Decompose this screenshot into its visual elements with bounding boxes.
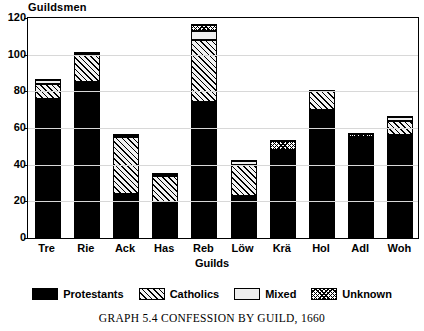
bar-has[interactable] (152, 173, 178, 238)
y-axis-tick-label: 40 (0, 159, 26, 169)
bar-segment-protestants (74, 81, 100, 238)
x-axis-title: Guilds (0, 257, 424, 269)
bar-woh[interactable] (387, 116, 413, 238)
bar-segment-mixed (191, 31, 217, 40)
y-axis-tick-label: 100 (0, 49, 26, 59)
y-axis-tick-label: 20 (0, 195, 26, 205)
bar-löw[interactable] (231, 160, 257, 238)
legend-label: Mixed (265, 288, 296, 300)
gridline (28, 55, 418, 56)
y-axis-title: Guildsmen (28, 1, 87, 13)
bar-segment-unknown (191, 25, 217, 31)
legend-item-protestants[interactable]: Protestants (32, 288, 124, 300)
bar-segment-catholics (231, 165, 257, 196)
y-axis-tick-label: 0 (0, 232, 26, 242)
bar-reb[interactable] (191, 24, 217, 238)
legend-item-mixed[interactable]: Mixed (234, 288, 296, 300)
gridline (28, 128, 418, 129)
bar-segment-protestants (152, 202, 178, 238)
bar-segment-catholics (191, 40, 217, 102)
y-axis-tick-label: 120 (0, 12, 26, 22)
bar-segment-catholics (152, 176, 178, 204)
bar-segment-mixed (35, 80, 61, 84)
gridline (28, 91, 418, 92)
bar-segment-catholics (74, 55, 100, 83)
legend-swatch-unknown (311, 288, 337, 300)
figure-caption: GRAPH 5.4 CONFESSION BY GUILD, 1660 (0, 312, 424, 324)
legend-item-unknown[interactable]: Unknown (311, 288, 392, 300)
y-axis-tick-label: 80 (0, 85, 26, 95)
legend-swatch-catholics (139, 288, 165, 300)
bar-segment-protestants (270, 149, 296, 238)
bar-segment-mixed (152, 174, 178, 176)
x-axis-label-woh: Woh (374, 242, 424, 254)
gridline (28, 201, 418, 202)
bar-segment-catholics (309, 91, 335, 109)
bar-segment-unknown (348, 134, 374, 138)
bar-segment-protestants (191, 101, 217, 238)
chart-legend: ProtestantsCatholicsMixedUnknown (0, 288, 424, 300)
legend-label: Unknown (342, 288, 392, 300)
bar-segment-protestants (387, 134, 413, 238)
plot-area (27, 17, 419, 239)
bar-tre[interactable] (35, 79, 61, 238)
gridline (28, 165, 418, 166)
bar-segment-protestants (35, 98, 61, 238)
legend-item-catholics[interactable]: Catholics (139, 288, 220, 300)
y-axis-tick-label: 60 (0, 122, 26, 132)
legend-swatch-mixed (234, 288, 260, 300)
bar-segment-mixed (113, 135, 139, 137)
bar-krä[interactable] (270, 140, 296, 238)
bar-rie[interactable] (74, 52, 100, 238)
bar-segment-protestants (113, 193, 139, 238)
legend-swatch-protestants (32, 288, 58, 300)
legend-label: Protestants (63, 288, 124, 300)
bar-ack[interactable] (113, 134, 139, 238)
bar-segment-unknown (270, 141, 296, 150)
bar-segment-mixed (387, 117, 413, 121)
legend-label: Catholics (170, 288, 220, 300)
chart-figure: Guildsmen 020406080100120 TreRieAckHasRe… (0, 0, 424, 331)
bar-segment-protestants (348, 136, 374, 238)
bar-adl[interactable] (348, 133, 374, 239)
